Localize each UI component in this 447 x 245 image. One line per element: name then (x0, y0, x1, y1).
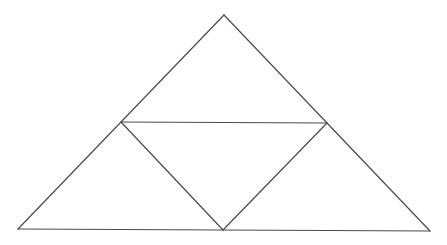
triangle-subdivision-diagram (0, 0, 447, 245)
inner-left-diagonal (121, 122, 223, 230)
inner-right-diagonal (223, 123, 327, 230)
midline-top (121, 122, 327, 123)
